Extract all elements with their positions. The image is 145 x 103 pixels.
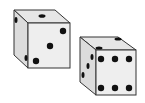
pip (112, 85, 118, 91)
pip (60, 28, 66, 34)
pip (33, 58, 39, 64)
pip (25, 55, 28, 61)
dice-image (0, 0, 145, 103)
pip (98, 56, 104, 62)
pip (112, 56, 118, 62)
pip (91, 54, 94, 60)
pip (126, 56, 132, 62)
pip (115, 37, 122, 40)
pip (15, 17, 18, 23)
pip (39, 14, 46, 18)
pip (87, 63, 90, 69)
pip (82, 72, 85, 78)
pip (98, 85, 104, 91)
die-left (14, 10, 70, 68)
pip (126, 85, 132, 91)
pip (47, 43, 53, 49)
pip (96, 46, 103, 49)
die-right (80, 37, 136, 95)
